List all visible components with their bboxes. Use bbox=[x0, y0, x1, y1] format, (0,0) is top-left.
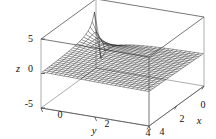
surface-plot-figure: 5 0 -5 z 0 2 4 y 4 2 0 x bbox=[0, 0, 216, 139]
plot-canvas: 5 0 -5 z 0 2 4 y 4 2 0 x bbox=[0, 0, 216, 139]
y-tick-label-0: 0 bbox=[58, 109, 63, 120]
z-axis-label: z bbox=[15, 63, 20, 74]
y-tick-label-2: 2 bbox=[105, 118, 110, 129]
x-tick-label-4: 4 bbox=[160, 126, 165, 137]
z-tick-label-0: 0 bbox=[28, 63, 33, 74]
y-axis-label: y bbox=[91, 125, 97, 136]
y-tick-label-4: 4 bbox=[146, 127, 151, 138]
x-axis-label: x bbox=[196, 115, 202, 126]
surface-wireframe bbox=[42, 12, 203, 91]
z-tick-label-neg5: -5 bbox=[25, 98, 33, 109]
z-tick-label-5: 5 bbox=[28, 33, 33, 44]
x-tick-label-0: 0 bbox=[201, 99, 206, 110]
x-tick-label-2: 2 bbox=[180, 113, 185, 124]
